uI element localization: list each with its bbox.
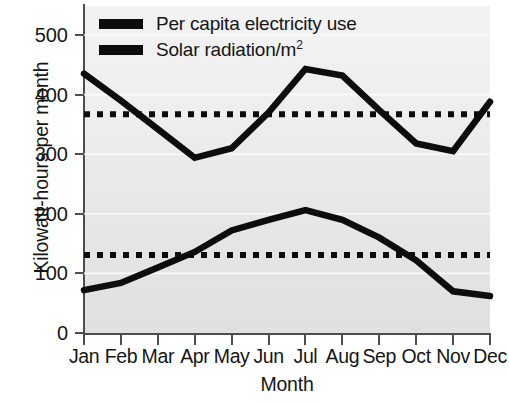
legend-label-solar-sup: 2 (296, 38, 302, 52)
y-tick-mark (75, 213, 84, 215)
x-tick-mark (83, 335, 85, 345)
x-tick-mark (415, 335, 417, 345)
y-tick-mark (75, 94, 84, 96)
legend-item-solar: Solar radiation/m2 (99, 37, 357, 63)
x-tick-mark (157, 335, 159, 345)
x-tick-mark (268, 335, 270, 345)
y-tick-mark (75, 332, 84, 334)
x-tick-mark (452, 335, 454, 345)
legend-label-solar-text: Solar radiation/m (156, 40, 296, 61)
legend-label-electricity: Per capita electricity use (156, 13, 357, 35)
chart-legend: Per capita electricity use Solar radiati… (99, 11, 357, 63)
x-tick-mark (378, 335, 380, 345)
y-axis-line (83, 4, 85, 335)
chart-figure: 0100200300400500 JanFebMarAprMayJunJulAu… (0, 0, 509, 404)
y-tick-mark (75, 34, 84, 36)
y-tick-mark (75, 153, 84, 155)
y-axis-title: Kilowatt-hours per month (30, 8, 53, 328)
x-tick-mark (194, 335, 196, 345)
x-tick-mark (489, 335, 491, 345)
x-tick-label: Dec (460, 345, 509, 368)
x-tick-mark (304, 335, 306, 345)
legend-label-solar: Solar radiation/m2 (156, 38, 303, 61)
x-tick-mark (231, 335, 233, 345)
x-axis-line (83, 333, 491, 335)
x-tick-mark (120, 335, 122, 345)
legend-swatch-electricity-icon (99, 19, 143, 29)
x-tick-mark (341, 335, 343, 345)
legend-swatch-solar-icon (99, 45, 143, 55)
x-axis-title: Month (83, 373, 491, 396)
legend-item-electricity: Per capita electricity use (99, 11, 357, 37)
y-tick-mark (75, 272, 84, 274)
